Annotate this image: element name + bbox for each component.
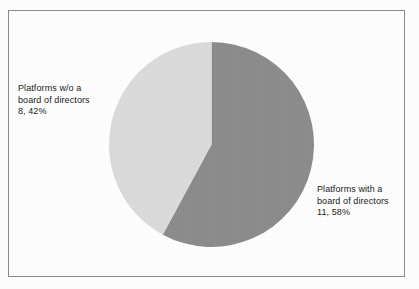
pie-chart	[109, 42, 314, 247]
slice-label-with-board: Platforms with a board of directors 11, …	[317, 184, 389, 219]
pie-chart-figure: Platforms w/o a board of directors 8, 42…	[0, 0, 419, 289]
slice-label-without-board: Platforms w/o a board of directors 8, 42…	[18, 83, 90, 118]
pie-svg	[109, 42, 314, 247]
